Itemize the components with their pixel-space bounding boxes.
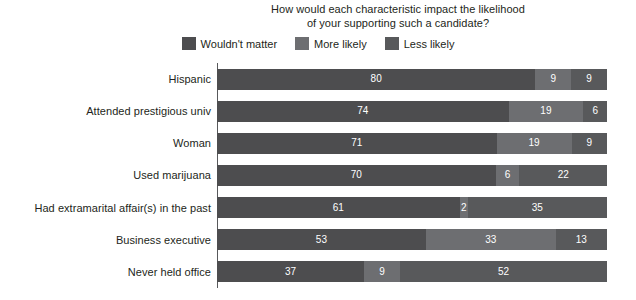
bar-segment[interactable]: 6	[496, 165, 520, 186]
chart-title-line-1: How would each characteristic impact the…	[248, 3, 548, 17]
category-label-slot: Woman	[0, 127, 211, 159]
bar-rows: 80997419671199706226123553331337952	[217, 63, 607, 288]
bar-segment-value: 6	[505, 170, 511, 180]
bar-row: 533313	[217, 224, 607, 256]
stacked-bar: 533313	[217, 229, 607, 250]
bar-segment-value: 70	[351, 170, 362, 180]
bar-row: 37952	[217, 256, 607, 288]
bar-row: 74196	[217, 95, 607, 127]
bar-segment[interactable]: 70	[217, 165, 496, 186]
bar-segment[interactable]: 9	[535, 69, 571, 90]
legend-label: Wouldn't matter	[201, 38, 277, 50]
bar-segment[interactable]: 37	[217, 261, 364, 282]
bar-segment[interactable]: 71	[217, 133, 497, 154]
bar-segment[interactable]: 9	[572, 133, 607, 154]
legend-swatch-icon	[385, 37, 399, 50]
plot-area: 80997419671199706226123553331337952	[217, 63, 607, 288]
bar-segment[interactable]: 53	[217, 229, 426, 250]
bar-segment[interactable]: 6	[583, 101, 607, 122]
category-label: Hispanic	[168, 73, 211, 85]
stacked-bar: 70622	[217, 165, 607, 186]
bar-segment-value: 61	[333, 203, 344, 213]
bar-segment-value: 13	[576, 235, 587, 245]
category-label: Never held office	[128, 266, 211, 278]
stacked-bar: 61235	[217, 197, 607, 218]
bar-segment-value: 80	[371, 74, 382, 84]
bar-segment-value: 37	[285, 267, 296, 277]
bar-row: 8099	[217, 63, 607, 95]
bar-segment-value: 71	[351, 138, 362, 148]
bar-segment-value: 9	[550, 74, 556, 84]
bar-segment[interactable]: 13	[556, 229, 607, 250]
legend-item[interactable]: Less likely	[385, 37, 455, 50]
bar-row: 70622	[217, 159, 607, 191]
bar-segment-value: 19	[529, 138, 540, 148]
bar-segment[interactable]: 19	[497, 133, 572, 154]
bar-segment[interactable]: 22	[519, 165, 607, 186]
category-label: Used marijuana	[133, 169, 211, 181]
legend-label: More likely	[314, 38, 367, 50]
legend-item[interactable]: More likely	[295, 37, 367, 50]
bar-segment-value: 9	[586, 74, 592, 84]
chart-title-line-2: of your supporting such a candidate?	[248, 17, 548, 31]
category-label-slot: Had extramarital affair(s) in the past	[0, 192, 211, 224]
category-label-slot: Attended prestigious univ	[0, 95, 211, 127]
legend-item[interactable]: Wouldn't matter	[182, 37, 277, 50]
bar-segment[interactable]: 80	[217, 69, 535, 90]
chart-title: How would each characteristic impact the…	[248, 3, 548, 30]
category-label-slot: Business executive	[0, 224, 211, 256]
category-label: Woman	[173, 137, 211, 149]
bar-segment-value: 74	[357, 106, 368, 116]
legend-swatch-icon	[295, 37, 309, 50]
stacked-bar: 74196	[217, 101, 607, 122]
bar-segment[interactable]: 33	[426, 229, 556, 250]
chart-legend: Wouldn't matterMore likelyLess likely	[0, 37, 636, 50]
stacked-bar: 8099	[217, 69, 607, 90]
bar-segment-value: 53	[316, 235, 327, 245]
bar-segment[interactable]: 19	[509, 101, 584, 122]
bar-row: 61235	[217, 192, 607, 224]
legend-swatch-icon	[182, 37, 196, 50]
bar-segment-value: 6	[592, 106, 598, 116]
bar-segment[interactable]: 35	[468, 197, 607, 218]
bar-segment-value: 9	[379, 267, 385, 277]
category-label: Attended prestigious univ	[86, 105, 211, 117]
stacked-bar: 71199	[217, 133, 607, 154]
bar-segment[interactable]: 74	[217, 101, 509, 122]
legend-label: Less likely	[404, 38, 455, 50]
bar-segment-value: 35	[532, 203, 543, 213]
category-label-slot: Hispanic	[0, 63, 211, 95]
bar-segment-value: 22	[558, 170, 569, 180]
stacked-bar: 37952	[217, 261, 607, 282]
bar-segment-value: 19	[540, 106, 551, 116]
category-axis-labels: HispanicAttended prestigious univWomanUs…	[0, 63, 211, 288]
bar-segment-value: 33	[485, 235, 496, 245]
stacked-bar-chart: How would each characteristic impact the…	[0, 0, 636, 300]
bar-segment-value: 9	[586, 138, 592, 148]
bar-segment[interactable]: 52	[400, 261, 607, 282]
category-label-slot: Used marijuana	[0, 159, 211, 191]
bar-segment-value: 2	[461, 203, 467, 213]
category-label: Business executive	[116, 234, 211, 246]
bar-segment[interactable]: 2	[460, 197, 468, 218]
bar-row: 71199	[217, 127, 607, 159]
bar-segment-value: 52	[498, 267, 509, 277]
bar-segment[interactable]: 9	[364, 261, 400, 282]
category-label-slot: Never held office	[0, 256, 211, 288]
category-label: Had extramarital affair(s) in the past	[34, 202, 211, 214]
bar-segment[interactable]: 61	[217, 197, 460, 218]
bar-segment[interactable]: 9	[571, 69, 607, 90]
